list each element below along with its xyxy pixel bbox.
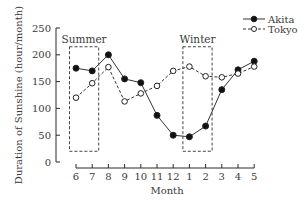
data-point bbox=[122, 76, 128, 82]
x-tick-label: 6 bbox=[73, 171, 79, 182]
data-point bbox=[219, 75, 225, 81]
data-point bbox=[170, 68, 176, 74]
data-point bbox=[73, 65, 79, 71]
x-tick-label: 12 bbox=[167, 171, 180, 182]
y-tick-label: 50 bbox=[38, 130, 51, 141]
data-point bbox=[235, 71, 241, 77]
data-point bbox=[89, 68, 95, 74]
data-point bbox=[170, 132, 176, 138]
season-label: Summer bbox=[62, 33, 108, 45]
data-point bbox=[154, 83, 160, 89]
data-point bbox=[251, 64, 257, 70]
y-tick-label: 0 bbox=[45, 157, 51, 168]
data-point bbox=[138, 80, 144, 86]
season-label: Winter bbox=[179, 33, 216, 45]
data-point bbox=[106, 64, 112, 70]
data-point bbox=[73, 95, 79, 101]
sunshine-chart: Duration of Sunshine (hour/month) Month … bbox=[0, 0, 308, 206]
x-axis-label: Month bbox=[150, 185, 184, 196]
axes: 050100150200250678910111212345 bbox=[32, 23, 257, 183]
x-tick-label: 1 bbox=[186, 171, 192, 182]
data-point bbox=[219, 87, 225, 93]
data-point bbox=[89, 80, 95, 86]
data-point bbox=[122, 99, 128, 105]
data-point bbox=[203, 73, 209, 79]
x-tick-label: 2 bbox=[202, 171, 208, 182]
data-point bbox=[187, 64, 193, 70]
y-tick-label: 100 bbox=[32, 103, 51, 114]
data-series bbox=[73, 52, 257, 140]
x-tick-label: 11 bbox=[151, 171, 164, 182]
data-point bbox=[105, 52, 111, 58]
y-tick-label: 250 bbox=[32, 23, 51, 34]
x-tick-label: 9 bbox=[121, 171, 127, 182]
y-axis-label: Duration of Sunshine (hour/month) bbox=[13, 6, 24, 184]
y-tick-label: 150 bbox=[32, 76, 51, 87]
x-tick-label: 5 bbox=[251, 171, 257, 182]
legend-label: Tokyo bbox=[268, 24, 298, 35]
data-point bbox=[186, 134, 192, 140]
data-point bbox=[203, 123, 209, 129]
x-tick-label: 4 bbox=[235, 171, 241, 182]
x-tick-label: 7 bbox=[89, 171, 95, 182]
legend: AkitaTokyo bbox=[243, 14, 298, 35]
x-tick-label: 8 bbox=[105, 171, 111, 182]
x-tick-label: 3 bbox=[219, 171, 225, 182]
x-tick-label: 10 bbox=[134, 171, 147, 182]
data-point bbox=[138, 91, 144, 97]
data-point bbox=[154, 112, 160, 118]
y-tick-label: 200 bbox=[32, 49, 51, 60]
